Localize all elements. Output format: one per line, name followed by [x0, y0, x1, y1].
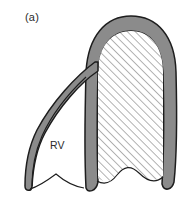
lv-cavity-hatched [98, 31, 163, 181]
rv-label: RV [50, 139, 65, 151]
panel-label: (a) [25, 11, 39, 23]
figure-container: (a) RV [0, 0, 189, 216]
heart-cross-section-diagram [0, 0, 189, 216]
